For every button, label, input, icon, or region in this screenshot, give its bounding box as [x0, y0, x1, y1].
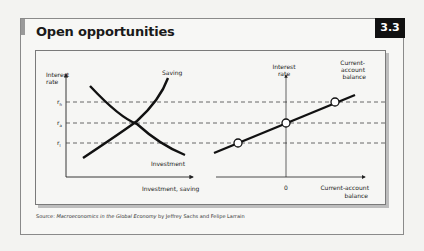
marker-rh: [331, 98, 339, 106]
left-x-axis-label: Investment, saving: [142, 185, 200, 193]
marker-ra: [282, 119, 290, 127]
right-ylabel-line2: rate: [278, 70, 290, 77]
right-x-axis-label-line2: balance: [344, 192, 368, 199]
zero-tick-label: 0: [284, 184, 288, 191]
rh-tick-label: rh: [57, 98, 62, 107]
ca-label-line1: Current-: [340, 59, 365, 66]
ra-tick-label: ra: [57, 119, 62, 128]
investment-label: Investment: [151, 160, 186, 167]
source-note: Source: Macroeconomics in the Global Eco…: [36, 213, 245, 219]
right-x-axis-label-line1: Current-account: [320, 184, 369, 191]
ca-label-line2: account: [341, 66, 366, 73]
saving-label: Saving: [162, 69, 183, 77]
rl-tick-label: rl: [57, 139, 61, 148]
ca-label-line3: balance: [342, 73, 366, 80]
marker-rl: [234, 139, 242, 147]
left-chart: Interest rate Saving Investment Investme…: [46, 69, 385, 193]
right-chart: Interest rate Current- account balance 0…: [214, 59, 370, 199]
left-ylabel-line2: rate: [46, 78, 58, 85]
left-ylabel-line1: Interest: [46, 71, 70, 78]
right-ylabel-line1: Interest: [272, 63, 296, 70]
